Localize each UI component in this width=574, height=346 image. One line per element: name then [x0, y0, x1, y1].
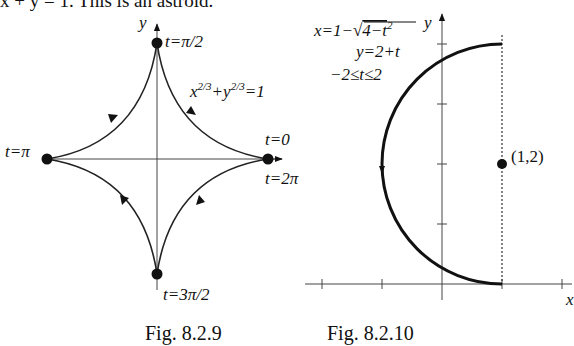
label-t-2pi: t=2π — [265, 169, 299, 188]
arrow-icon — [379, 166, 385, 174]
point-center — [497, 159, 507, 169]
point-bottom — [152, 269, 163, 280]
astroid-figure: y t=π/2 x2/3+y2/3=1 t=π t=0 t=2π t=3π/2 … — [5, 13, 299, 345]
astroid-arc-q1 — [157, 43, 268, 159]
arrow-icon — [186, 106, 196, 115]
caption-fig-8-2-10: Fig. 8.2.10 — [327, 322, 414, 345]
astroid-equation: x2/3+y2/3=1 — [189, 80, 265, 101]
point-left — [42, 154, 53, 165]
equation-y: y=2+t — [354, 42, 401, 61]
arrow-icon — [196, 195, 205, 205]
label-t-0: t=0 — [265, 130, 290, 149]
caption-fig-8-2-9: Fig. 8.2.9 — [145, 322, 222, 345]
astroid-arc-q2 — [47, 43, 157, 159]
point-label: (1,2) — [511, 147, 544, 166]
semicircle-figure: (1,2) x=1−√4−t2 y y=2+t −2≤t≤2 x Fig. 8.… — [305, 13, 574, 345]
arrow-icon — [108, 114, 118, 123]
figures-canvas: y t=π/2 x2/3+y2/3=1 t=π t=0 t=2π t=3π/2 … — [0, 0, 574, 346]
point-top — [152, 38, 163, 49]
astroid-arc-q4 — [157, 159, 268, 274]
y-axis-label: y — [422, 13, 432, 32]
label-t-pi-2: t=π/2 — [165, 32, 203, 51]
point-right — [263, 154, 274, 165]
y-axis-label: y — [137, 13, 147, 32]
x-axis-label: x — [565, 290, 574, 309]
label-t-3pi-2: t=3π/2 — [163, 285, 210, 304]
label-t-pi: t=π — [5, 142, 30, 161]
arrow-icon — [120, 195, 129, 205]
astroid-arc-q3 — [47, 159, 157, 274]
parameter-range: −2≤t≤2 — [330, 65, 382, 84]
